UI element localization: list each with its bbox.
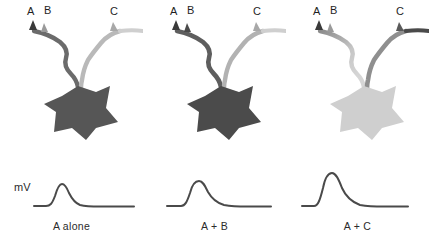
synapse-label-b: B (44, 4, 51, 16)
synapse-marker-b (184, 23, 191, 32)
synapse-marker-c (253, 22, 261, 31)
synapse-label-c: C (396, 5, 404, 17)
trace-caption-a-plus-c: A + C (286, 220, 429, 232)
neuron-diagram-a-plus-c: A B C (286, 0, 429, 160)
synapse-marker-c (110, 22, 118, 31)
synapse-marker-a (29, 20, 37, 30)
epsp-curve (302, 173, 408, 207)
synapse-label-a: A (170, 5, 177, 17)
neuron-diagram-a-plus-b: A B C (143, 0, 286, 160)
right-dendrite (81, 31, 120, 88)
soma (187, 86, 261, 140)
axon-segment (406, 30, 429, 31)
synapse-marker-a (172, 20, 180, 30)
left-dendrite (320, 31, 364, 87)
synapse-label-a: A (27, 5, 34, 17)
left-dendrite (177, 31, 221, 87)
trace-a-alone: mV A alone (0, 160, 143, 248)
synapse-label-b: B (187, 4, 194, 16)
neuron-svg (286, 0, 429, 160)
synapse-marker-b (327, 23, 334, 32)
panel-a-alone: A B C mV A alone (0, 0, 143, 248)
y-axis-label: mV (14, 181, 31, 193)
neuron-svg (0, 0, 143, 160)
trace-caption-a-alone: A alone (0, 220, 143, 232)
right-dendrite (224, 31, 263, 88)
panel-a-plus-c: A B C A + C (286, 0, 429, 248)
axon-segment (120, 30, 143, 31)
neuron-diagram-a-alone: A B C (0, 0, 143, 160)
soma (44, 86, 118, 140)
synapse-label-b: B (330, 4, 337, 16)
trace-svg (286, 160, 429, 220)
synapse-marker-c (396, 22, 404, 31)
left-dendrite (34, 31, 78, 87)
synapse-label-c: C (110, 5, 118, 17)
trace-caption-a-plus-b: A + B (143, 220, 286, 232)
synapse-label-c: C (253, 5, 261, 17)
epsp-curve (34, 184, 134, 207)
neuron-svg (143, 0, 286, 160)
trace-a-plus-c: A + C (286, 160, 429, 248)
epsp-curve (167, 181, 271, 207)
panel-a-plus-b: A B C A + B (143, 0, 286, 248)
synapse-marker-b (41, 23, 48, 32)
right-dendrite (367, 31, 406, 88)
trace-svg (143, 160, 286, 220)
synapse-label-a: A (313, 5, 320, 17)
soma (330, 86, 404, 140)
synapse-marker-a (315, 20, 323, 30)
trace-a-plus-b: A + B (143, 160, 286, 248)
figure-root: A B C mV A alone A B C (0, 0, 429, 248)
axon-segment (263, 30, 286, 31)
